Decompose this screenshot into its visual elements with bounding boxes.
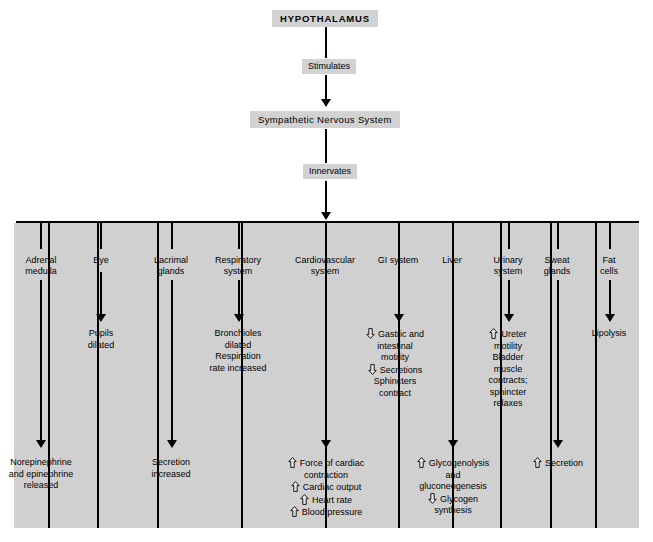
effect-line: synthesis — [392, 505, 514, 517]
header-line: medulla — [0, 266, 82, 277]
effect-text: Secretions — [380, 365, 423, 375]
effect-text: Secretion — [545, 458, 583, 468]
column-divider — [97, 223, 99, 528]
effect-text: contract — [379, 388, 411, 398]
header-line: Fat — [569, 255, 649, 266]
down-arrow-icon — [428, 493, 437, 504]
effect-text: Glycogen — [440, 494, 478, 504]
effect-text: contracts; — [488, 375, 527, 385]
effect-line: Respiration — [188, 351, 288, 363]
effect-text: motility — [381, 352, 409, 362]
effect-liver: Glycogenolysis and gluconeogenesis Glyco… — [392, 457, 514, 517]
effect-line: dilated — [188, 340, 288, 352]
effect-line: rate increased — [188, 363, 288, 375]
effect-line: and — [392, 470, 514, 482]
arrowhead-eye — [96, 314, 106, 322]
effect-line: dilated — [61, 340, 141, 352]
effect-text: contraction — [304, 470, 348, 480]
arrowhead-liver — [448, 440, 458, 448]
stem-fat-cells-lower — [609, 280, 611, 316]
stem-lacrimal-glands-lower — [171, 280, 173, 442]
effect-line: increased — [131, 469, 211, 481]
effect-line: muscle — [456, 364, 560, 376]
up-arrow-icon — [300, 494, 309, 505]
effect-line: contracts; — [456, 375, 560, 387]
arrowhead-gi-system — [394, 314, 404, 322]
stem-sweat-glands — [557, 223, 559, 249]
effect-text: Glycogenolysis — [429, 458, 490, 468]
effect-text: muscle — [494, 364, 523, 374]
chain-line-1 — [325, 27, 327, 58]
effect-text: Ureter — [501, 329, 526, 339]
up-arrow-icon — [291, 481, 300, 492]
column-header-fat-cells: Fat cells — [569, 255, 649, 276]
up-arrow-icon — [417, 457, 426, 468]
chain-arrowhead-2 — [321, 212, 331, 220]
stem-eye — [100, 223, 102, 249]
effect-line: Bladder — [456, 352, 560, 364]
effect-line: and epinephrine — [0, 469, 90, 481]
effect-text: Bladder — [492, 352, 523, 362]
effect-gi-system: Gastric and intestinal motility Secretio… — [334, 328, 456, 399]
effect-line: Sphincters — [334, 376, 456, 388]
stem-adrenal-medulla-lower — [40, 280, 42, 442]
arrowhead-adrenal-medulla — [36, 440, 46, 448]
arrowhead-lacrimal-glands — [167, 440, 177, 448]
effect-text: Gastric and — [378, 329, 424, 339]
diagram-canvas: HYPOTHALAMUS Stimulates Sympathetic Nerv… — [0, 0, 653, 542]
effect-text: synthesis — [434, 505, 472, 515]
stem-fat-cells — [609, 223, 611, 249]
effect-line: Heart rate — [258, 494, 394, 507]
effect-line: intestinal — [334, 341, 456, 353]
connector-label-stimulates: Stimulates — [302, 59, 356, 74]
stem-urinary-system — [508, 223, 510, 249]
effect-text: motility — [494, 341, 522, 351]
effect-urinary-system: Ureter motility Bladder muscle contracts… — [456, 328, 560, 410]
up-arrow-icon — [489, 328, 498, 339]
effect-text: and — [445, 470, 460, 480]
chain-arrowhead-1 — [321, 99, 331, 107]
header-line: cells — [569, 266, 649, 277]
effect-text: Blood pressure — [302, 507, 363, 517]
chain-line-2 — [325, 75, 327, 101]
effect-line: gluconeogenesis — [392, 481, 514, 493]
node-sympathetic-nervous-system: Sympathetic Nervous System — [250, 111, 400, 128]
stem-gi-system-lower — [398, 272, 400, 316]
effect-eye: Pupils dilated — [61, 328, 141, 351]
effect-fat-cells: Lipolysis — [569, 328, 649, 340]
effect-text: sphincter — [490, 387, 527, 397]
effect-line: Norepinephrine — [0, 457, 90, 469]
effect-cardiovascular-system: Force of cardiac contraction Cardiac out… — [258, 457, 394, 519]
effect-text: gluconeogenesis — [419, 481, 487, 491]
stem-eye-lower — [100, 272, 102, 316]
effect-line: motility — [334, 352, 456, 364]
down-arrow-icon — [366, 328, 375, 339]
effect-line: contraction — [258, 470, 394, 482]
arrowhead-cardiovascular-system — [321, 440, 331, 448]
effect-line: Force of cardiac — [258, 457, 394, 470]
effect-line: Pupils — [61, 328, 141, 340]
effect-text: Cardiac output — [303, 482, 362, 492]
effect-line: Glycogenolysis — [392, 457, 514, 470]
column-header-eye: Eye — [61, 255, 141, 266]
effect-line: released — [0, 480, 90, 492]
effect-line: Secretion — [512, 457, 604, 470]
effect-text: relaxes — [493, 398, 522, 408]
stem-cardiovascular-system-lower — [325, 280, 327, 442]
stem-liver — [452, 223, 454, 249]
effect-line: contract — [334, 388, 456, 400]
stem-respiratory-system — [238, 223, 240, 249]
effect-line: relaxes — [456, 398, 560, 410]
header-line: Eye — [61, 255, 141, 266]
effect-line: Bronchioles — [188, 328, 288, 340]
effect-line: Secretions — [334, 364, 456, 377]
stem-adrenal-medulla — [40, 223, 42, 249]
header-line: system — [272, 266, 378, 277]
effect-line: Cardiac output — [258, 481, 394, 494]
up-arrow-icon — [288, 457, 297, 468]
effect-line: Gastric and — [334, 328, 456, 341]
effect-line: Lipolysis — [569, 328, 649, 340]
stem-respiratory-system-lower — [238, 280, 240, 316]
arrowhead-urinary-system — [504, 314, 514, 322]
effect-line: Glycogen — [392, 493, 514, 506]
